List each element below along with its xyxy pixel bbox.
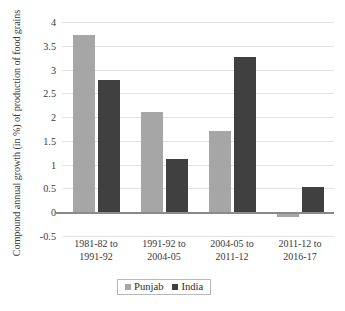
- x-axis-tick-label: 1991-92 to2004-05: [129, 238, 199, 263]
- chart-legend: PunjabIndia: [117, 279, 211, 295]
- x-axis-tick-line: 2011-12 to: [265, 238, 335, 251]
- legend-item-punjab[interactable]: Punjab: [125, 281, 163, 292]
- x-axis-tick-line: 2011-12: [197, 251, 267, 264]
- legend-item-india[interactable]: India: [172, 281, 203, 292]
- y-axis-tick-label: -0.5: [30, 231, 56, 242]
- y-axis-title-text: Compound annual growth (in %) of product…: [11, 10, 23, 256]
- bar-group: [130, 22, 198, 236]
- bar-india: [302, 187, 324, 212]
- y-axis-tick-labels: 43.532.521.510.50-0.5: [26, 22, 56, 236]
- y-axis-tick-label: 1.5: [30, 135, 56, 146]
- x-axis-tick-label: 2011-12 to2016-17: [265, 238, 335, 263]
- figure-caption: [8, 302, 338, 311]
- x-axis-tick-line: 2004-05: [129, 251, 199, 264]
- y-axis-tick-label: 4: [30, 17, 56, 28]
- legend-swatch-icon: [125, 284, 131, 290]
- y-axis-tick-label: 0: [30, 207, 56, 218]
- x-axis-tick-line: 2004-05 to: [197, 238, 267, 251]
- y-axis-tick-label: 1: [30, 159, 56, 170]
- y-axis-tick-label: 2: [30, 112, 56, 123]
- plot-area: [62, 22, 334, 236]
- bar-group: [62, 22, 130, 236]
- gridline: [62, 236, 334, 237]
- bar-punjab: [141, 112, 163, 212]
- zero-axis-line: [56, 212, 334, 214]
- bar-group: [266, 22, 334, 236]
- bar-group: [198, 22, 266, 236]
- bar-india: [234, 57, 256, 213]
- x-axis-tick-labels: 1981-82 to1991-921991-92 to2004-052004-0…: [62, 238, 334, 268]
- x-axis-tick-label: 1981-82 to1991-92: [61, 238, 131, 263]
- x-axis-tick-line: 1981-82 to: [61, 238, 131, 251]
- x-axis-tick-line: 1991-92 to: [129, 238, 199, 251]
- legend-swatch-icon: [172, 284, 178, 290]
- x-axis-tick-label: 2004-05 to2011-12: [197, 238, 267, 263]
- y-axis-tick-label: 0.5: [30, 183, 56, 194]
- bar-india: [166, 159, 188, 212]
- x-axis-tick-line: 1991-92: [61, 251, 131, 264]
- bar-india: [98, 80, 120, 212]
- bar-punjab: [73, 35, 95, 212]
- legend-item-label: India: [181, 281, 203, 292]
- y-axis-tick-label: 2.5: [30, 88, 56, 99]
- y-axis-tick-label: 3: [30, 64, 56, 75]
- legend-item-label: Punjab: [134, 281, 163, 292]
- x-axis-tick-line: 2016-17: [265, 251, 335, 264]
- y-axis-tick-label: 3.5: [30, 40, 56, 51]
- chart-figure: Compound annual growth (in %) of product…: [0, 0, 345, 311]
- bar-punjab: [209, 131, 231, 212]
